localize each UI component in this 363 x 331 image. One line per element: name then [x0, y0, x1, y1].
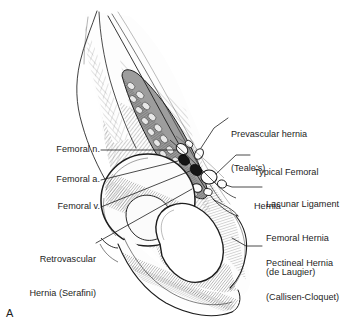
label-pectineal-hernia-line1: Pectineal Hernia	[266, 258, 339, 269]
label-prevascular-hernia-line1: Prevascular hernia	[231, 129, 307, 140]
label-femoral-artery: Femoral a.	[6, 174, 100, 185]
label-retrovascular-hernia-line2: Hernia (Serafini)	[2, 288, 96, 299]
label-pectineal-hernia-line2: (Callisen-Cloquet)	[266, 292, 339, 303]
label-retrovascular-hernia-line1: Retrovascular	[2, 254, 96, 265]
anatomical-figure: Femoral n. Femoral a. Femoral v. Retrova…	[0, 0, 363, 331]
label-femoral-nerve: Femoral n.	[6, 144, 100, 155]
label-pectineal-hernia: Pectineal Hernia (Callisen-Cloquet)	[266, 235, 339, 326]
label-lacunar-ligament-hernia-line1: Lacunar Ligament	[266, 199, 339, 210]
label-femoral-vein: Femoral v.	[6, 201, 100, 212]
leader-prevascular-hernia	[201, 118, 228, 148]
panel-label: A	[6, 307, 13, 319]
label-retrovascular-hernia: Retrovascular Hernia (Serafini)	[2, 231, 96, 322]
retrovascular-notch	[100, 238, 118, 262]
